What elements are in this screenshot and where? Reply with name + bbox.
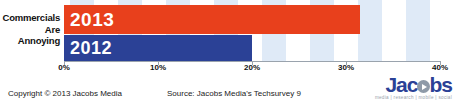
- background-band: [406, 0, 430, 62]
- copyright-text: Copyright © 2013 Jacobs Media: [8, 89, 122, 98]
- category-label-line-1: Commercials: [0, 12, 60, 24]
- x-tick-mark: [440, 61, 441, 65]
- jacobs-logo-word-end: bs: [429, 73, 452, 96]
- bar-2013-label: 2013: [64, 10, 114, 29]
- category-label-line-3: Annoying: [0, 35, 60, 47]
- category-label: Commercials Are Annoying: [0, 12, 60, 47]
- bar-2013: 2013: [64, 5, 360, 34]
- bar-2012-label: 2012: [64, 39, 112, 57]
- x-tick-mark: [64, 61, 65, 65]
- jacobs-logo-wordmark: Jacbs: [360, 74, 452, 95]
- source-text: Source: Jacobs Media's Techsurvey 9: [167, 89, 301, 98]
- play-button-icon: [417, 80, 430, 93]
- chart-figure: Commercials Are Annoying 2013 2012 0%10%…: [0, 0, 456, 104]
- plot-area: 2013 2012: [64, 0, 440, 62]
- jacobs-logo-word-start: Jac: [385, 73, 417, 96]
- background-band: [358, 0, 382, 62]
- x-tick-mark: [158, 61, 159, 65]
- bar-2012: 2012: [64, 35, 252, 61]
- jacobs-logo: Jacbs media | research | mobile | social: [360, 74, 452, 102]
- category-label-line-2: Are: [0, 24, 60, 36]
- x-tick-mark: [252, 61, 253, 65]
- x-tick-mark: [346, 61, 347, 65]
